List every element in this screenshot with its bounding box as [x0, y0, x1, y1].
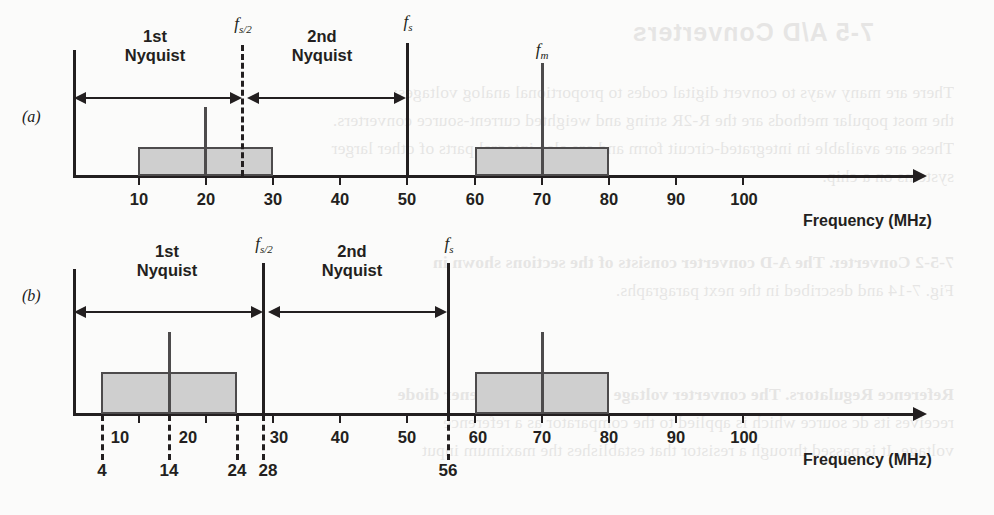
panel-a-fs-subscript: s — [408, 21, 412, 33]
panel-a-tick-100 — [742, 176, 744, 185]
panel-b-ticklabel-20: 20 — [179, 428, 197, 447]
panel-b-dropline-4 — [101, 415, 104, 460]
panel-a-tick-40 — [339, 176, 341, 185]
panel-b-fs-half-subscript: s/2 — [260, 243, 273, 255]
panel-a-tick-50 — [406, 176, 408, 185]
panel-b-ticklabel-70: 70 — [533, 428, 551, 447]
panel-a-tick-20 — [205, 176, 207, 185]
panel-b-zone1-span — [80, 311, 256, 313]
panel-a-tick-70 — [541, 176, 543, 185]
panel-b-zone2-span — [274, 311, 436, 313]
panel-a-fs-half-label: fs/2 — [234, 14, 252, 35]
panel-b-tick-90 — [675, 414, 677, 423]
panel-b-dropline-28 — [262, 415, 265, 460]
panel-b-dropline-56 — [447, 415, 450, 460]
panel-a-zone1-label: 1st Nyquist — [125, 27, 186, 65]
panel-a-ticklabel-10: 10 — [130, 190, 148, 209]
panel-b-ticklabel-80: 80 — [600, 428, 618, 447]
panel-b-ticklabel-40: 40 — [331, 428, 349, 447]
panel-a-zone1-label-line2: Nyquist — [125, 46, 186, 64]
panel-a-axis-title: Frequency (MHz) — [803, 212, 932, 230]
panel-a-ticklabel-70: 70 — [533, 190, 551, 209]
panel-a-fm-subscript: m — [540, 49, 548, 61]
panel-a-fs-half-subscript: s/2 — [239, 23, 252, 35]
panel-a-tick-10 — [138, 176, 140, 185]
panel-a-tick-90 — [675, 176, 677, 185]
panel-b-zone2-arrow-right — [435, 306, 447, 318]
panel-b-tick-100 — [742, 414, 744, 423]
panel-a-ticklabel-100: 100 — [730, 190, 758, 209]
panel-b-tick-20 — [205, 414, 207, 423]
panel-b-zone2-label-line1: 2nd — [337, 242, 366, 260]
panel-a-ticklabel-20: 20 — [197, 190, 215, 209]
panel-b-letter: (b) — [22, 287, 41, 305]
panel-a-letter: (a) — [22, 108, 41, 126]
panel-b-tone-70mhz — [541, 332, 544, 414]
panel-a-fs-half-marker — [241, 45, 244, 176]
panel-a-x-axis-arrowhead — [913, 169, 927, 183]
panel-a-zone2-label: 2nd Nyquist — [292, 27, 353, 65]
panel-a-tick-60 — [474, 176, 476, 185]
panel-b-droplabel-28: 28 — [259, 461, 278, 481]
panel-a-ticklabel-60: 60 — [466, 190, 484, 209]
panel-b-ticklabel-50: 50 — [398, 428, 416, 447]
panel-b-ticklabel-10: 10 — [111, 428, 129, 447]
panel-a-ticklabel-30: 30 — [264, 190, 282, 209]
panel-b-ticklabel-30: 30 — [270, 428, 288, 447]
panel-b-zone2-label-line2: Nyquist — [322, 261, 383, 279]
panel-b-tick-50 — [406, 414, 408, 423]
panel-b-tick-60 — [474, 414, 476, 423]
figure-canvas: 7-5 A/D Converters There are many ways t… — [0, 0, 994, 515]
panel-a-tone-20mhz — [204, 107, 207, 176]
panel-b-axis-title: Frequency (MHz) — [803, 451, 932, 469]
panel-b-droplabel-14: 14 — [160, 461, 179, 481]
panel-b-ticklabel-100: 100 — [730, 428, 758, 447]
panel-b-fs-half-marker — [262, 263, 265, 414]
panel-a-zone1-label-line1: 1st — [143, 27, 167, 45]
panel-a-tone-fm — [541, 63, 544, 176]
panel-b-tick-80 — [608, 414, 610, 423]
panel-b-ticklabel-90: 90 — [667, 428, 685, 447]
panel-b-zone1-label-line2: Nyquist — [137, 261, 198, 279]
panel-a-fs-label: fs — [403, 12, 412, 33]
panel-b-dropline-14 — [168, 415, 171, 460]
panel-b-x-axis-arrowhead — [913, 407, 927, 421]
panel-a-ticklabel-80: 80 — [600, 190, 618, 209]
panel-b-tick-10 — [138, 414, 140, 423]
panel-b: (b) fs/2 fs 1st Nyquist — [0, 240, 994, 515]
panel-b-tick-70 — [541, 414, 543, 423]
panel-b-y-axis — [73, 269, 76, 415]
panel-a-zone2-span — [253, 97, 395, 99]
panel-b-droplabel-56: 56 — [439, 461, 458, 481]
panel-b-dropline-24 — [236, 415, 239, 460]
panel-a-zone2-label-line2: Nyquist — [292, 46, 353, 64]
panel-b-zone1-arrow-right — [251, 306, 263, 318]
panel-a-ticklabel-50: 50 — [398, 190, 416, 209]
panel-b-tone-14mhz — [168, 332, 171, 414]
panel-b-ticklabel-60: 60 — [469, 428, 487, 447]
panel-b-tick-40 — [339, 414, 341, 423]
panel-a-ticklabel-90: 90 — [667, 190, 685, 209]
panel-a-zone2-arrow-right — [394, 92, 406, 104]
panel-a-zone2-label-line1: 2nd — [307, 27, 336, 45]
panel-b-droplabel-24: 24 — [228, 461, 247, 481]
panel-b-droplabel-4: 4 — [97, 461, 106, 481]
panel-b-zone1-label: 1st Nyquist — [137, 242, 198, 280]
panel-a-fs-marker — [406, 43, 409, 176]
panel-a: (a) fm fs/2 fs 1st Nyquist — [0, 0, 994, 258]
panel-a-tick-80 — [608, 176, 610, 185]
panel-a-fm-label: fm — [536, 40, 549, 61]
panel-b-fs-half-label: fs/2 — [255, 234, 273, 255]
panel-a-zone1-span — [80, 97, 235, 99]
panel-a-ticklabel-40: 40 — [331, 190, 349, 209]
panel-b-tick-30 — [272, 414, 274, 423]
panel-a-tick-30 — [272, 176, 274, 185]
panel-b-fs-subscript: s — [449, 243, 453, 255]
panel-b-fs-marker — [447, 263, 450, 414]
panel-a-zone1-arrow-right — [230, 92, 242, 104]
panel-b-zone2-label: 2nd Nyquist — [322, 242, 383, 280]
panel-b-fs-label: fs — [444, 234, 453, 255]
panel-a-y-axis — [73, 50, 76, 177]
panel-b-zone1-label-line1: 1st — [155, 242, 179, 260]
